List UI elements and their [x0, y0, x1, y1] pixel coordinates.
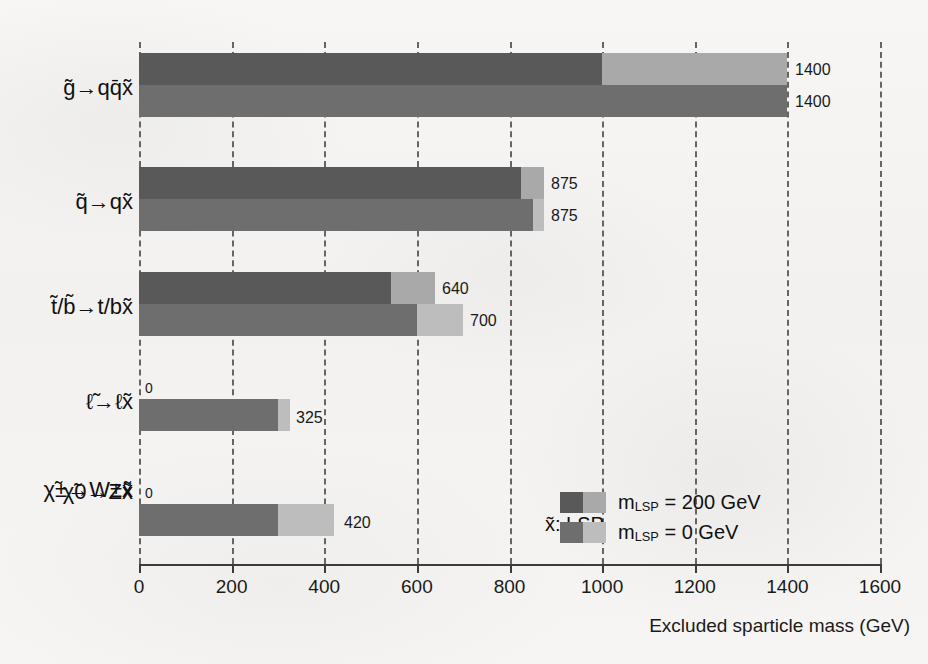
x-axis-tick-1400	[787, 564, 789, 573]
legend-row-mlsp200: mLSP = 200 GeV	[560, 487, 761, 517]
x-axis-tick-label-0: 0	[134, 576, 145, 598]
legend-label-mlsp0: mLSP = 0 GeV	[618, 521, 738, 544]
gridline-800	[510, 42, 512, 564]
gridline-1000	[602, 42, 604, 564]
bar-squark-mlsp0	[139, 199, 533, 231]
excluded-sparticle-mass-chart: 1400 1400 875 875 640 700 0 325 0 420 g̃…	[0, 0, 928, 664]
x-axis-tick-600	[417, 564, 419, 573]
legend-swatch-mlsp200	[560, 492, 606, 513]
category-label-chargino-wrap: χ̃±→W±x̃ χ̃0→Zx̃	[0, 478, 133, 505]
category-label-neutralino: χ̃0→Zx̃	[0, 480, 133, 505]
value-label-squark-mlsp0: 875	[551, 208, 578, 224]
bar-gaugino-mlsp0	[139, 504, 278, 536]
bar-squark-mlsp200	[139, 167, 521, 199]
value-label-gluino-mlsp200: 1400	[795, 62, 831, 78]
x-axis-tick-400	[324, 564, 326, 573]
category-label-gluino: g̃→qq̄x̃	[63, 76, 133, 101]
value-label-gaugino-mlsp0: 420	[344, 515, 371, 531]
x-axis-tick-label-1000: 1000	[581, 576, 623, 598]
x-axis-tick-200	[232, 564, 234, 573]
x-axis-tick-label-600: 600	[401, 576, 433, 598]
value-label-squark-mlsp200: 875	[551, 176, 578, 192]
x-axis-tick-1600	[880, 564, 882, 573]
x-axis-title: Excluded sparticle mass (GeV)	[649, 615, 910, 637]
x-axis-tick-label-1400: 1400	[766, 576, 808, 598]
value-label-slepton-mlsp0: 325	[296, 410, 323, 426]
x-axis-tick-0	[139, 564, 141, 573]
legend: mLSP = 200 GeV mLSP = 0 GeV	[560, 487, 761, 547]
bar-gluino-mlsp200	[139, 53, 602, 85]
x-axis-tick-label-200: 200	[216, 576, 248, 598]
legend-row-mlsp0: mLSP = 0 GeV	[560, 517, 761, 547]
bar-gluino-mlsp0	[139, 85, 787, 117]
value-label-slepton-mlsp200: 0	[145, 381, 153, 395]
gridline-1600	[880, 42, 882, 564]
x-axis-tick-label-1200: 1200	[674, 576, 716, 598]
gridline-1400	[787, 42, 789, 564]
x-axis-tick-label-800: 800	[494, 576, 526, 598]
x-axis-tick-label-400: 400	[308, 576, 340, 598]
gridline-1200	[695, 42, 697, 564]
legend-swatch-mlsp0	[560, 522, 606, 543]
x-axis-tick-800	[510, 564, 512, 573]
legend-label-mlsp200: mLSP = 200 GeV	[618, 491, 761, 514]
x-axis-tick-label-1600: 1600	[859, 576, 901, 598]
value-label-gaugino-mlsp200: 0	[145, 486, 153, 500]
bar-slepton-mlsp0	[139, 399, 278, 431]
x-axis-tick-1000	[602, 564, 604, 573]
value-label-stop-mlsp200: 640	[442, 281, 469, 297]
category-label-squark: q̃→qx̃	[76, 190, 133, 215]
value-label-gluino-mlsp0: 1400	[795, 94, 831, 110]
value-label-stop-mlsp0: 700	[470, 313, 497, 329]
category-label-slepton: ℓ̃→ℓx̃	[86, 390, 133, 415]
bar-stop-mlsp0	[139, 304, 417, 336]
bar-stop-mlsp200	[139, 272, 391, 304]
category-label-stop-sbottom: t̃/b̃→t/bx̃	[51, 295, 133, 320]
x-axis-tick-1200	[695, 564, 697, 573]
